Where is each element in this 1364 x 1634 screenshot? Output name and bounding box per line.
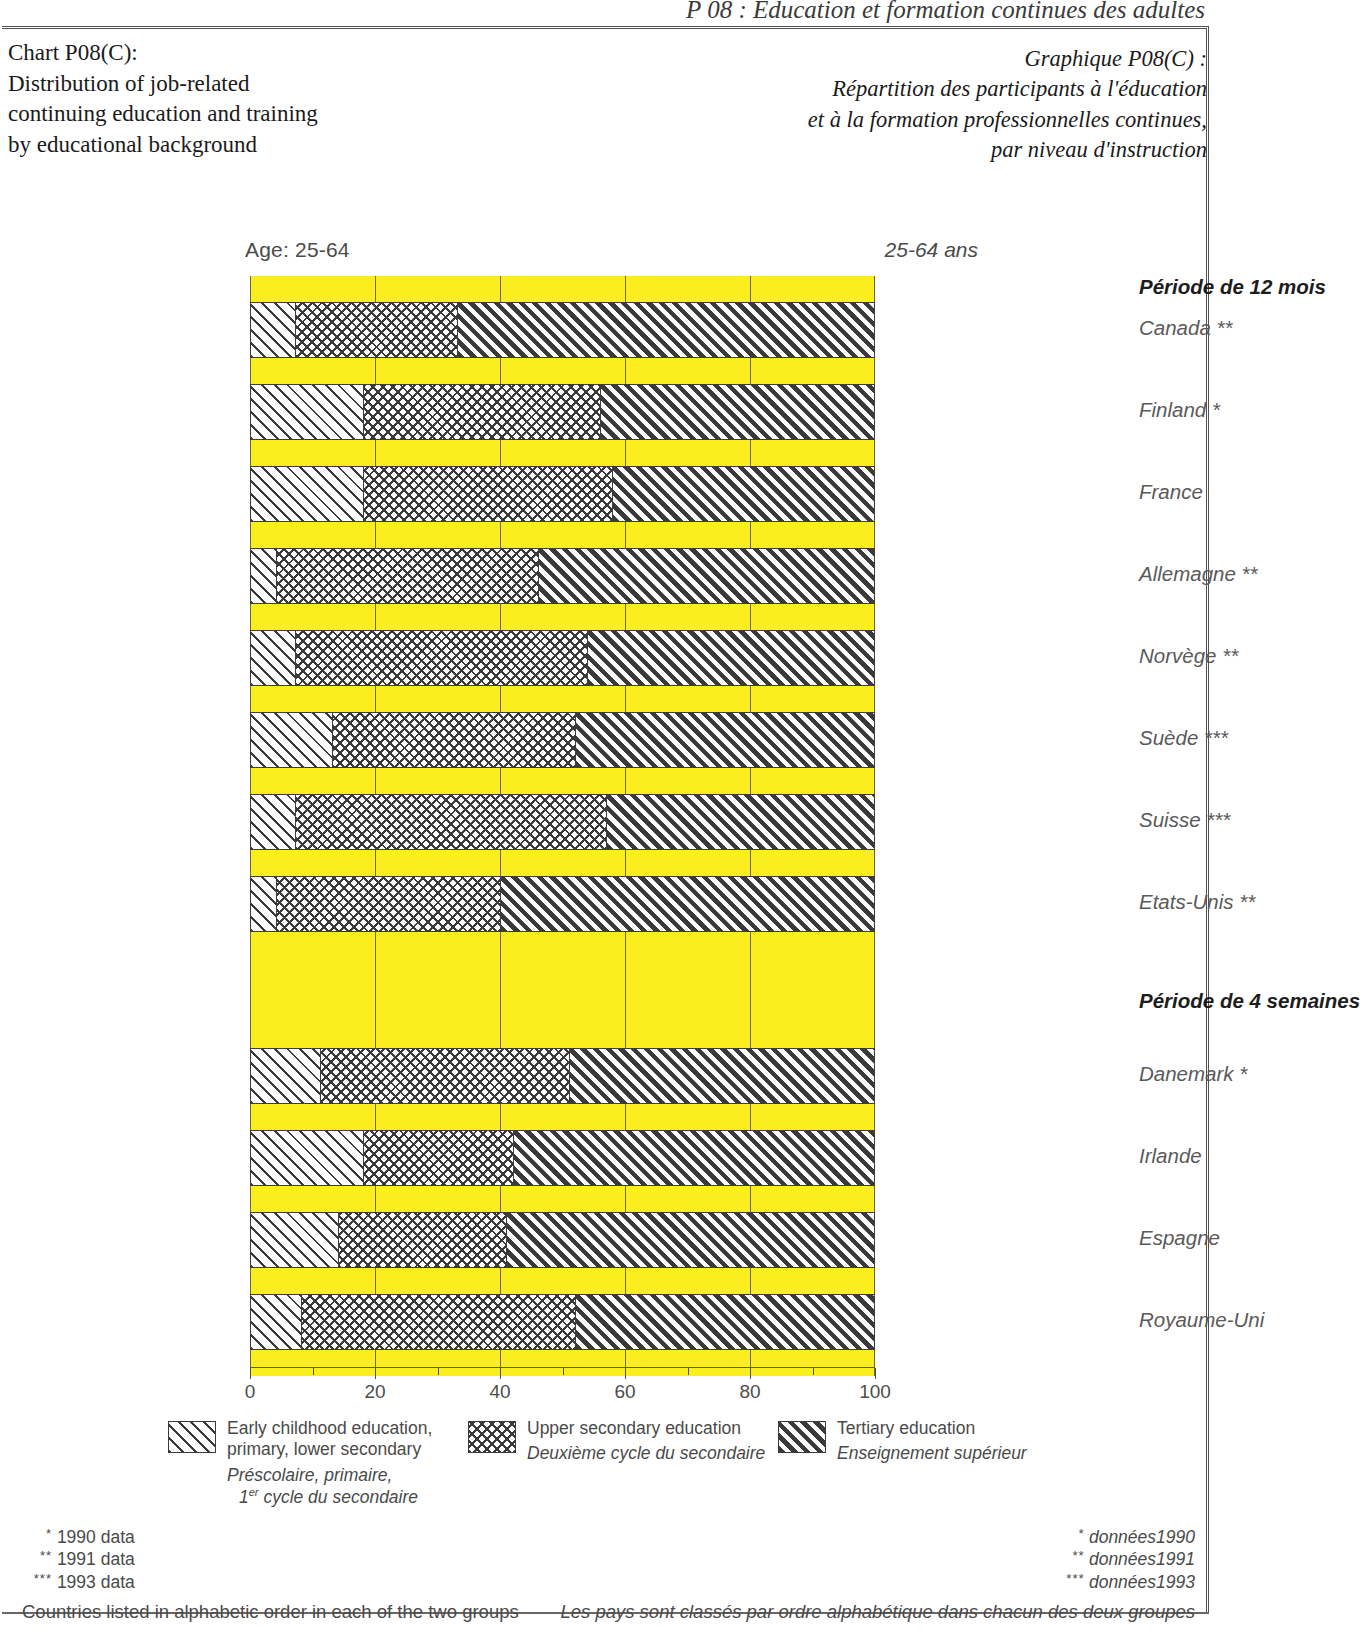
bar-segment-dense-diagonal-hatch — [513, 1131, 874, 1185]
footnote-fr-1991-text: données1991 — [1089, 1549, 1195, 1569]
gridline-20 — [375, 358, 376, 384]
x-tick-minor-90 — [813, 1368, 814, 1375]
stacked-bar — [250, 302, 875, 358]
bar-segment-diagonal-hatch — [251, 467, 363, 521]
footnote-star-2: ** — [22, 1548, 52, 1565]
stacked-bar — [250, 384, 875, 440]
footnote-en-1990-text: 1990 data — [57, 1527, 135, 1547]
bar-row[interactable] — [250, 1048, 875, 1104]
gridline-60 — [625, 768, 626, 794]
bar-segment-diagonal-hatch — [251, 1049, 320, 1103]
gridline-20 — [375, 522, 376, 548]
bar-row[interactable] — [250, 712, 875, 768]
gridline-80 — [750, 358, 751, 384]
gridline-80 — [750, 1186, 751, 1212]
stacked-bar — [250, 630, 875, 686]
bar-row[interactable] — [250, 1212, 875, 1268]
bar-row[interactable] — [250, 302, 875, 358]
gridline-40 — [500, 440, 501, 466]
bar-row[interactable] — [250, 630, 875, 686]
spacer-row — [250, 850, 875, 876]
gridline-80 — [750, 686, 751, 712]
spacer-row — [250, 440, 875, 466]
bar-segment-diagonal-hatch — [251, 713, 332, 767]
bar-row[interactable] — [250, 876, 875, 932]
gridline-40 — [500, 276, 501, 302]
gridline-60 — [625, 686, 626, 712]
stacked-bar — [250, 466, 875, 522]
gridline-20 — [375, 686, 376, 712]
bar-segment-cross-hatch — [295, 631, 588, 685]
x-tick-label-0: 0 — [245, 1381, 256, 1403]
gridline-40 — [500, 932, 501, 958]
x-tick-label-20: 20 — [364, 1381, 385, 1403]
bar-segment-cross-hatch — [276, 877, 500, 931]
spacer-row — [250, 768, 875, 794]
gridline-20 — [375, 768, 376, 794]
bar-segment-cross-hatch — [332, 713, 575, 767]
bar-row[interactable] — [250, 466, 875, 522]
x-tick-minor-10 — [313, 1368, 314, 1375]
spacer-row — [250, 604, 875, 630]
bar-segment-dense-diagonal-hatch — [538, 549, 874, 603]
bar-row[interactable] — [250, 548, 875, 604]
footnotes-fr: * données1990 ** données1991 *** données… — [560, 1526, 1195, 1624]
bar-segment-diagonal-hatch — [251, 631, 295, 685]
spacer-row — [250, 522, 875, 548]
stacked-bar — [250, 876, 875, 932]
footnote-fr-1993: *** données1993 — [560, 1571, 1195, 1593]
footnote-fr-1991: ** données1991 — [560, 1548, 1195, 1570]
legend-item-early-childhood-primary-lower-secondary: Early childhood education, primary, lowe… — [168, 1418, 468, 1508]
gridline-60 — [625, 604, 626, 630]
footnote-fr-star-1: * — [1078, 1526, 1084, 1541]
bar-rows-container: 12-month period** Canada* FinlandFrance*… — [250, 276, 875, 1376]
country-label-fr: Finland * — [1125, 398, 1364, 422]
gridline-80 — [750, 768, 751, 794]
gridline-40 — [500, 522, 501, 548]
legend-item-tertiary: Tertiary educationEnseignement supérieur — [778, 1418, 1058, 1508]
bar-segment-diagonal-hatch — [251, 303, 295, 357]
footnote-fr-star-2: ** — [1072, 1548, 1084, 1563]
stacked-bar — [250, 1294, 875, 1350]
legend-swatch-upper-secondary — [468, 1421, 516, 1453]
gridline-60 — [625, 1186, 626, 1212]
gridline-60 — [625, 1268, 626, 1294]
legend-text: Early childhood education, primary, lowe… — [227, 1418, 432, 1508]
country-label-fr: Irlande — [1125, 1144, 1364, 1168]
footnote-star-1: * — [22, 1526, 52, 1543]
x-tick-label-60: 60 — [614, 1381, 635, 1403]
legend-swatch-early-childhood-primary-lower-secondary — [168, 1421, 216, 1453]
gridline-40 — [500, 604, 501, 630]
stacked-bar — [250, 712, 875, 768]
x-tick-major-80 — [750, 1368, 751, 1379]
gridline-40 — [500, 1268, 501, 1294]
gridline-60 — [625, 958, 626, 1048]
bar-row[interactable] — [250, 1294, 875, 1350]
x-tick-minor-70 — [688, 1368, 689, 1375]
gridline-20 — [375, 276, 376, 302]
spacer-row — [250, 686, 875, 712]
footnote-fr-1993-text: données1993 — [1089, 1572, 1195, 1592]
group-header-fr: Période de 4 semaines — [1125, 989, 1364, 1013]
bar-segment-diagonal-hatch — [251, 385, 363, 439]
chart-legend: Early childhood education, primary, lowe… — [168, 1418, 1168, 1508]
gridline-60 — [625, 440, 626, 466]
gridline-20 — [375, 604, 376, 630]
footnote-en-1991-text: 1991 data — [57, 1549, 135, 1569]
bar-row[interactable] — [250, 794, 875, 850]
country-label-fr: Etats-Unis ** — [1125, 890, 1364, 914]
bar-segment-diagonal-hatch — [251, 795, 295, 849]
bar-segment-diagonal-hatch — [251, 549, 276, 603]
x-tick-label-80: 80 — [739, 1381, 760, 1403]
bar-segment-dense-diagonal-hatch — [612, 467, 874, 521]
gridline-20 — [375, 932, 376, 958]
bar-segment-dense-diagonal-hatch — [500, 877, 874, 931]
bar-row[interactable] — [250, 1130, 875, 1186]
gridline-80 — [750, 1268, 751, 1294]
country-label-fr: Royaume-Uni — [1125, 1308, 1364, 1332]
bar-row[interactable] — [250, 384, 875, 440]
legend-label-fr: Deuxième cycle du secondaire — [527, 1443, 765, 1464]
gridline-60 — [625, 358, 626, 384]
x-tick-minor-30 — [438, 1368, 439, 1375]
x-tick-label-100: 100 — [859, 1381, 891, 1403]
